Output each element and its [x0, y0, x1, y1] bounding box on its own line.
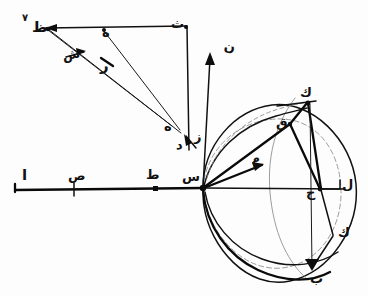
radius-arrow-meem — [204, 165, 262, 188]
d-arrowhead — [184, 134, 192, 146]
figure-drawing — [0, 0, 368, 296]
qaf-node — [288, 122, 292, 126]
diagonal-h1-to-h — [104, 31, 180, 130]
lam-pointer — [322, 180, 340, 189]
label-ba: ب — [310, 272, 323, 285]
upper-triangle-group — [45, 24, 196, 150]
ray-through-sh — [48, 30, 172, 126]
folio-mark: ٧ — [22, 12, 28, 23]
kaf-node — [306, 101, 311, 106]
label-zayn-upper: ز — [194, 130, 201, 143]
label-sad: ص — [68, 169, 86, 182]
label-dal: د — [176, 138, 183, 151]
chord-origin-qaf — [203, 124, 290, 188]
th-node — [184, 25, 188, 29]
label-seen: س — [182, 170, 200, 183]
manuscript-figure: ٧ ظ ه ش ر ث ه د ز ا ص ط س ن ك ق م ح ل ك … — [0, 0, 368, 296]
label-hah: ح — [306, 186, 315, 199]
label-he-lower: ه — [164, 120, 172, 133]
label-alif: ا — [22, 168, 27, 183]
oblique-circle-faint — [203, 119, 341, 268]
baseline — [15, 188, 203, 190]
label-kaf-top: ك — [300, 86, 312, 99]
label-he-top: ه — [102, 26, 110, 39]
vertical-axis-group — [203, 52, 215, 188]
top-horizontal — [46, 26, 187, 28]
right-vertical — [187, 27, 189, 150]
label-qaf: ق — [276, 116, 288, 129]
label-theh: ث — [171, 17, 184, 30]
vertical-axis-arrowhead — [205, 52, 215, 65]
label-noon: ن — [223, 39, 236, 53]
vertical-axis — [203, 58, 210, 188]
label-lam: ل — [342, 178, 353, 191]
label-ra: ر — [100, 58, 109, 73]
baseline-right — [203, 188, 345, 189]
label-tah: ط — [146, 168, 160, 181]
baseline-tick-2 — [153, 186, 158, 191]
label-kaf-lower: ك — [338, 226, 350, 239]
edge-ha-kaf2 — [321, 190, 333, 235]
baseline-group — [15, 183, 345, 196]
label-sheen: ش — [61, 46, 81, 62]
label-zh: ظ — [32, 20, 48, 35]
